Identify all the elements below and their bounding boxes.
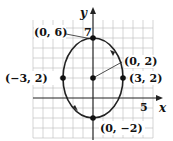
point-label-0-6: (0, 6) <box>34 26 67 39</box>
point-label-3-2: (3, 2) <box>129 72 162 85</box>
y-axis-arrow-icon <box>90 7 96 14</box>
ellipse-graph: x y 5 7 (0, 6) (0, 2) (−3, 2) (3, 2) (0,… <box>0 0 173 141</box>
point-0-2 <box>90 75 96 81</box>
point-label-0-neg2: (0, −2) <box>100 122 143 135</box>
label-leader <box>93 62 122 78</box>
point-0-neg2 <box>90 115 96 121</box>
point-0-6 <box>90 35 96 41</box>
point-neg3-2 <box>60 75 66 81</box>
x-axis-label: x <box>158 101 167 115</box>
point-3-2 <box>120 75 126 81</box>
y-axis-label: y <box>79 6 88 20</box>
point-label-0-2: (0, 2) <box>124 55 157 68</box>
point-label-neg3-2: (−3, 2) <box>5 72 48 85</box>
x-tick-5: 5 <box>140 101 148 114</box>
